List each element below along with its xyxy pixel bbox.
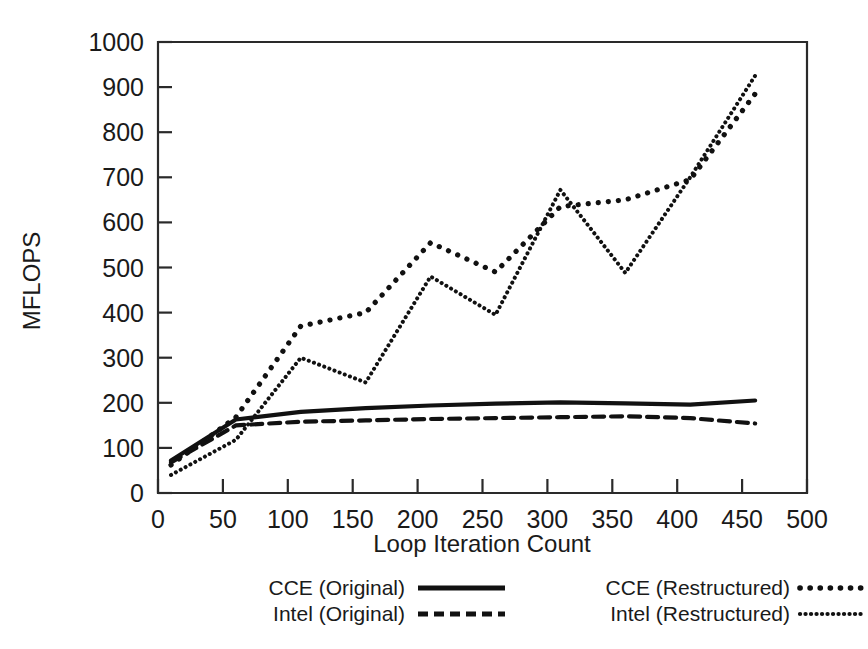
chart-canvas: 01002003004005006007008009001000 0501001…	[0, 0, 868, 649]
legend-label: CCE (Restructured)	[606, 576, 790, 599]
x-tick-label: 400	[656, 505, 698, 533]
y-tick-label: 700	[102, 163, 144, 191]
x-tick-label: 0	[151, 505, 165, 533]
legend-label: Intel (Restructured)	[610, 602, 790, 625]
y-tick-label: 600	[102, 208, 144, 236]
y-tick-label: 800	[102, 118, 144, 146]
y-tick-label: 100	[102, 434, 144, 462]
x-tick-label: 300	[527, 505, 569, 533]
y-axis-ticks: 01002003004005006007008009001000	[88, 28, 172, 507]
x-tick-label: 100	[267, 505, 309, 533]
legend-entry: Intel (Original)	[273, 602, 505, 625]
legend-label: CCE (Original)	[268, 576, 405, 599]
x-tick-label: 500	[786, 505, 828, 533]
x-axis-title: Loop Iteration Count	[373, 530, 591, 557]
legend-label: Intel (Original)	[273, 602, 405, 625]
x-tick-label: 350	[591, 505, 633, 533]
y-tick-label: 500	[102, 254, 144, 282]
y-tick-label: 900	[102, 73, 144, 101]
y-tick-label: 400	[102, 299, 144, 327]
y-tick-label: 1000	[88, 28, 144, 56]
chart-legend: CCE (Original)Intel (Original)CCE (Restr…	[268, 576, 862, 625]
legend-entry: Intel (Restructured)	[610, 602, 862, 625]
series-line	[171, 416, 755, 462]
x-tick-label: 250	[462, 505, 504, 533]
x-tick-label: 150	[332, 505, 374, 533]
x-axis-ticks: 050100150200250300350400450500	[151, 479, 828, 533]
x-tick-label: 450	[721, 505, 763, 533]
y-tick-label: 300	[102, 344, 144, 372]
y-tick-label: 0	[130, 479, 144, 507]
series-line	[171, 94, 755, 465]
x-tick-label: 200	[397, 505, 439, 533]
y-tick-label: 200	[102, 389, 144, 417]
legend-entry: CCE (Original)	[268, 576, 505, 599]
series-layer	[171, 76, 755, 475]
y-axis-title: MFLOPS	[18, 232, 45, 331]
x-tick-label: 50	[209, 505, 237, 533]
chart-figure: 01002003004005006007008009001000 0501001…	[0, 0, 868, 649]
legend-entry: CCE (Restructured)	[606, 576, 862, 599]
